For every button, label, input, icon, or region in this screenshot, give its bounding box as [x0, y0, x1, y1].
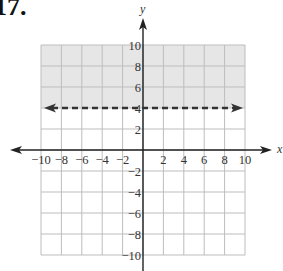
x-tick-label: 6 [201, 153, 207, 167]
y-tick-label: −6 [128, 207, 141, 221]
x-tick-label: 2 [160, 153, 166, 167]
x-tick-label: −4 [96, 153, 110, 167]
y-tick-label: 4 [135, 102, 142, 116]
coordinate-plane-chart: −10−8−6−4−2246810108642−2−4−6−8−10 x y [0, 0, 283, 271]
y-tick-label: 10 [129, 39, 142, 53]
x-tick-label: −8 [55, 153, 68, 167]
y-tick-label: 8 [135, 60, 141, 74]
x-tick-label: 10 [239, 153, 252, 167]
x-tick-label: −10 [31, 153, 51, 167]
y-tick-label: 2 [135, 123, 141, 137]
x-tick-label: 4 [181, 153, 188, 167]
x-tick-label: −6 [75, 153, 88, 167]
x-tick-label: 8 [221, 153, 227, 167]
y-tick-label: −4 [128, 186, 142, 200]
y-tick-label: 6 [135, 81, 141, 95]
y-tick-label: −8 [128, 228, 141, 242]
y-tick-label: −2 [128, 165, 141, 179]
y-axis-label: y [139, 2, 146, 16]
x-axis-label: x [276, 142, 283, 156]
y-tick-label: −10 [121, 249, 141, 263]
